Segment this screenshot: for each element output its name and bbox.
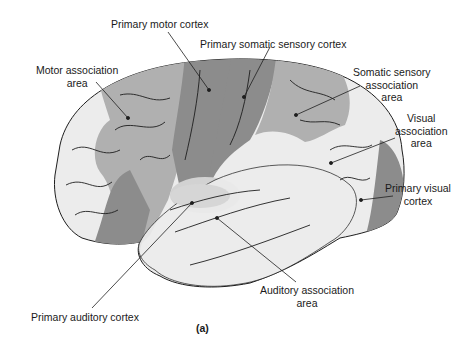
label-primary-somatic-sensory-cortex: Primary somatic sensory cortex <box>200 38 346 51</box>
brain-illustration <box>0 0 469 344</box>
label-primary-motor-cortex: Primary motor cortex <box>111 18 208 31</box>
label-primary-auditory-cortex: Primary auditory cortex <box>31 311 139 324</box>
label-motor-association-area: Motor association area <box>36 64 118 89</box>
figure-caption: (a) <box>196 322 209 334</box>
label-visual-association-area: Visual association area <box>395 112 448 150</box>
brain-functional-areas-figure: Primary motor cortex Primary somatic sen… <box>0 0 469 344</box>
label-primary-visual-cortex: Primary visual cortex <box>385 182 451 207</box>
label-somatic-sensory-association-area: Somatic sensory association area <box>353 66 431 104</box>
label-auditory-association-area: Auditory association area <box>260 284 354 309</box>
